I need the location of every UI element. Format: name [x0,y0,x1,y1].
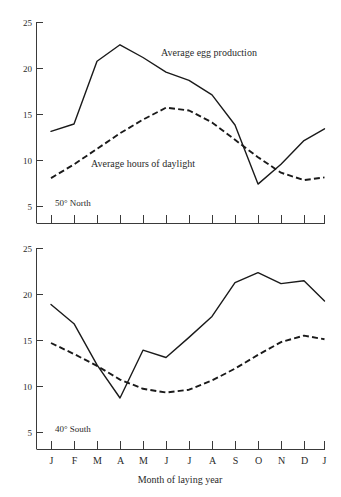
y-tick-label-20-south: 20 [23,290,33,300]
annotation-daylight-north: Average hours of daylight [91,158,195,169]
x-label-month-12: J [323,455,327,466]
x-tick-marks-south [52,441,325,450]
egg-production-daylight-figure: 25 20 15 10 5 [0,0,341,497]
x-axis-north [37,215,326,224]
y-axis-north: 25 20 15 10 5 [23,18,43,223]
x-label-month-1: F [72,455,78,466]
series-egg-production-south [51,273,325,398]
panel-annotation-north: 50° North [55,198,91,208]
x-label-month-2: M [93,455,102,466]
x-axis-title: Month of laying year [138,474,223,485]
x-label-month-4: M [139,455,148,466]
x-label-month-5: J [165,455,169,466]
x-axis-south: J F M A M J J A S O N D J Month of layin… [37,441,327,485]
series-daylight-north [51,108,325,180]
chart-svg-south: 25 20 15 10 5 [0,240,341,497]
y-tick-label-25: 25 [23,18,33,28]
chart-svg-north: 25 20 15 10 5 [0,4,341,236]
x-label-month-9: O [255,455,262,466]
y-tick-label-25-south: 25 [23,244,33,254]
x-label-month-3: A [117,455,125,466]
chart-panel-north: 25 20 15 10 5 [0,4,341,236]
series-daylight-south [51,336,325,393]
x-label-month-7: A [209,455,217,466]
y-tick-label-10: 10 [23,156,33,166]
x-label-month-11: D [301,455,308,466]
y-tick-label-5: 5 [28,202,33,212]
y-tick-label-10-south: 10 [23,382,33,392]
x-month-labels: J F M A M J J A S O N D J [50,455,327,466]
x-label-month-10: N [278,455,285,466]
y-tick-label-15: 15 [23,110,33,120]
y-tick-label-15-south: 15 [23,336,33,346]
x-label-month-8: S [233,455,239,466]
y-tick-label-5-south: 5 [28,428,33,438]
x-label-month-6: J [188,455,192,466]
annotation-egg-production-north: Average egg production [161,47,257,58]
y-tick-label-20: 20 [23,64,33,74]
x-label-month-0: J [50,455,54,466]
x-tick-marks-north [52,215,325,224]
y-axis-south: 25 20 15 10 5 [23,244,43,449]
chart-panel-south: 25 20 15 10 5 [0,240,341,472]
panel-annotation-south: 40° South [55,424,91,434]
